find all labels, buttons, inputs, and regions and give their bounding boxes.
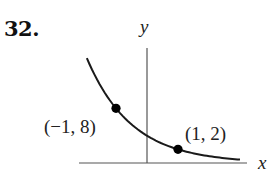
decay-curve [87, 58, 240, 159]
point-1-2 [173, 145, 182, 154]
x-axis-label: x [257, 152, 267, 173]
y-axis-label: y [138, 16, 149, 37]
point-neg1-8 [111, 104, 120, 113]
point-label-neg1-8: (−1, 8) [44, 116, 96, 138]
exponential-graph: (−1, 8) (1, 2) x y [0, 0, 276, 189]
point-label-1-2: (1, 2) [185, 123, 226, 145]
